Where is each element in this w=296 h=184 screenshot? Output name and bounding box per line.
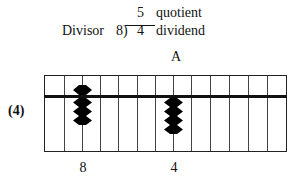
earth-bead <box>73 107 92 116</box>
earth-bead <box>73 116 92 125</box>
rod-1 <box>64 76 65 151</box>
rod-3 <box>100 76 101 151</box>
rod-11 <box>248 76 249 151</box>
dividend-label: dividend <box>156 24 205 38</box>
earth-bead <box>164 125 183 134</box>
rod-6 <box>155 76 156 151</box>
divisor-value: 8) <box>116 24 128 38</box>
step-label: (4) <box>8 104 24 118</box>
rod-5 <box>137 76 138 151</box>
earth-bead <box>73 98 92 107</box>
rod-4 <box>118 76 119 151</box>
quotient-label: quotient <box>156 6 202 20</box>
column-marker-a: A <box>171 50 181 64</box>
rod-8 <box>191 76 192 151</box>
heaven-bead <box>73 85 92 95</box>
rod-9 <box>210 76 211 151</box>
dividend-value: 4 <box>137 24 144 38</box>
rod-value-label: 4 <box>164 161 184 175</box>
earth-bead <box>164 116 183 125</box>
rod-value-label: 8 <box>73 161 93 175</box>
earth-bead <box>164 98 183 107</box>
divisor-label: Divisor <box>62 24 104 38</box>
quotient-value: 5 <box>137 6 144 20</box>
rod-12 <box>267 76 268 151</box>
rod-10 <box>229 76 230 151</box>
earth-bead <box>164 107 183 116</box>
